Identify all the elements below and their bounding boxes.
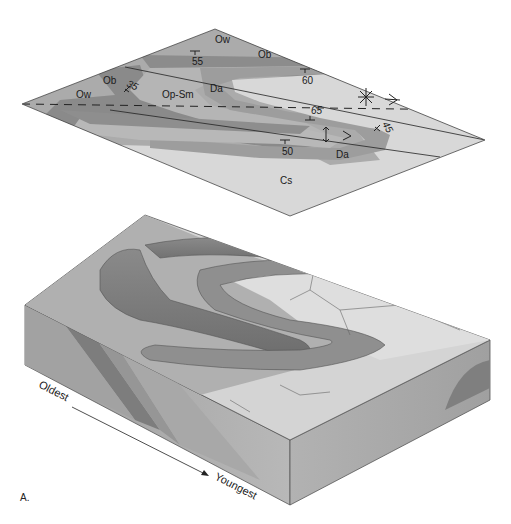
syncline-symbol-icon — [358, 88, 374, 106]
label-ob-left: Ob — [103, 75, 117, 86]
figure: Ow Ob Ob Ow Op-Sm Da Da Cs 55 60 35 65 4… — [0, 0, 511, 524]
dip-55: 55 — [192, 56, 204, 67]
dip-50: 50 — [282, 146, 294, 157]
label-ob-top: Ob — [258, 49, 272, 60]
dip-60: 60 — [302, 75, 314, 86]
label-ow-left: Ow — [76, 89, 92, 100]
geologic-map: Ow Ob Ob Ow Op-Sm Da Da Cs 55 60 35 65 4… — [22, 29, 485, 216]
label-da-upper: Da — [210, 83, 223, 94]
label-da-lower: Da — [336, 149, 349, 160]
panel-label: A. — [20, 492, 29, 503]
block-diagram: Oldest Youngest — [25, 215, 490, 505]
label-op-sm: Op-Sm — [162, 89, 194, 100]
label-cs: Cs — [280, 175, 292, 186]
label-ow-top: Ow — [215, 34, 231, 45]
dip-65: 65 — [311, 105, 323, 116]
